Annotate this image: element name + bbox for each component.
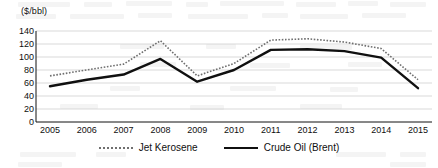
legend-item-jet-kerosene: Jet Kerosene xyxy=(99,143,198,153)
legend-item-crude-oil-brent: Crude Oil (Brent) xyxy=(224,143,340,153)
x-tick-2015: 2015 xyxy=(396,126,438,135)
legend-label-jet-kerosene: Jet Kerosene xyxy=(139,143,198,153)
series-line-jet-kerosene xyxy=(50,39,418,80)
legend-swatch-dotted-line xyxy=(99,147,133,149)
y-tick-100: 100 xyxy=(10,53,34,62)
series-line-crude-oil-brent xyxy=(50,49,418,88)
chart-legend: Jet Kerosene Crude Oil (Brent) xyxy=(0,143,438,153)
y-tick-140: 140 xyxy=(10,27,34,36)
y-tick-80: 80 xyxy=(10,66,34,75)
plot-area xyxy=(36,31,432,122)
y-tick-40: 40 xyxy=(10,92,34,101)
legend-swatch-solid-line xyxy=(224,147,258,149)
y-tick-20: 20 xyxy=(10,105,34,114)
y-tick-120: 120 xyxy=(10,40,34,49)
plot-svg xyxy=(36,31,432,122)
y-tick-60: 60 xyxy=(10,79,34,88)
price-trend-line-chart: ($/bbl) 140 120 100 80 60 40 20 0 200520… xyxy=(0,0,438,168)
legend-label-crude-oil-brent: Crude Oil (Brent) xyxy=(264,143,340,153)
